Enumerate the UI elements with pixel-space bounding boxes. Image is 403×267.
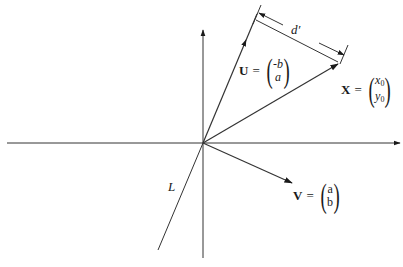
right-paren: ) bbox=[334, 179, 340, 213]
left-paren: ( bbox=[320, 179, 326, 213]
equals-sign: = bbox=[354, 82, 361, 98]
vector-X-label: X = ( x0 y0 ) bbox=[341, 73, 394, 107]
vector-X-name: X bbox=[341, 82, 350, 98]
equals-sign: = bbox=[252, 63, 259, 79]
right-paren: ) bbox=[284, 54, 290, 88]
vector-V-name: V bbox=[293, 188, 302, 204]
dimension-arrow-right bbox=[319, 43, 344, 55]
vector-V bbox=[203, 143, 292, 183]
left-paren: ( bbox=[266, 54, 272, 88]
vector-V-label: V = ( a b ) bbox=[293, 179, 342, 213]
vector-U-label: U = ( -b a ) bbox=[239, 54, 292, 88]
vector-U-bottom: a bbox=[275, 71, 281, 84]
left-paren: ( bbox=[368, 73, 374, 107]
equals-sign: = bbox=[306, 188, 313, 204]
tick-left bbox=[253, 5, 261, 24]
right-paren: ) bbox=[385, 73, 391, 107]
vector-V-bottom: b bbox=[327, 196, 333, 209]
distance-label: d′ bbox=[291, 22, 300, 38]
line-L-label: L bbox=[168, 179, 175, 195]
diagram-canvas bbox=[0, 0, 403, 267]
vector-U-name: U bbox=[239, 63, 248, 79]
line-L bbox=[158, 143, 203, 250]
